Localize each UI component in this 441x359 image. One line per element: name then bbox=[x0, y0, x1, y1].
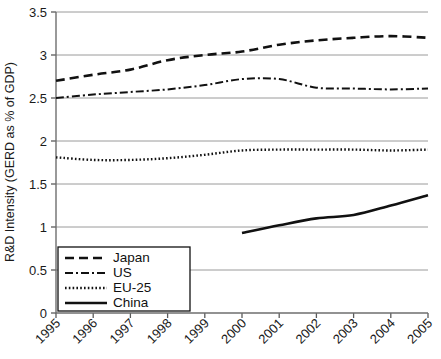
rd-intensity-line-chart: 00.511.522.533.5 19951996199719981999200… bbox=[0, 0, 441, 359]
legend-label-japan: Japan bbox=[113, 250, 150, 265]
chart-container: 00.511.522.533.5 19951996199719981999200… bbox=[0, 0, 441, 359]
y-tick-label: 0.5 bbox=[29, 263, 47, 278]
legend-label-china: China bbox=[113, 295, 149, 310]
y-tick-label: 1.5 bbox=[29, 177, 47, 192]
y-tick-label: 3.5 bbox=[29, 5, 47, 20]
y-tick-label: 0 bbox=[40, 306, 47, 321]
y-axis-title: R&D Intensity (GERD as % of GDP) bbox=[3, 62, 17, 262]
y-tick-label: 3 bbox=[40, 48, 47, 63]
y-tick-label: 2.5 bbox=[29, 91, 47, 106]
y-tick-label: 1 bbox=[40, 220, 47, 235]
y-tick-label: 2 bbox=[40, 134, 47, 149]
chart-legend: JapanUSEU-25China bbox=[58, 247, 190, 311]
legend-label-eu-25: EU-25 bbox=[113, 280, 151, 295]
legend-label-us: US bbox=[113, 265, 132, 280]
